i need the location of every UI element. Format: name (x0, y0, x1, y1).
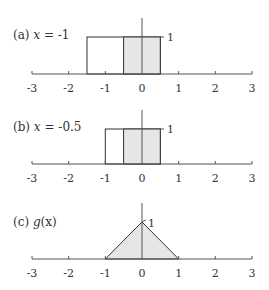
svg-text:3: 3 (249, 82, 256, 95)
svg-text:-1: -1 (100, 172, 111, 185)
panel-a-label: (a) x = -1 (13, 28, 70, 42)
svg-text:3: 3 (249, 267, 256, 280)
panel-c-label: (c) g(x) (13, 215, 57, 229)
svg-text:2: 2 (212, 172, 219, 185)
panel-b-label: (b) x = -0.5 (13, 120, 81, 134)
svg-text:-3: -3 (27, 267, 38, 280)
svg-text:0: 0 (139, 267, 146, 280)
svg-text:0: 0 (139, 172, 146, 185)
panel-a: 1 -3 -2 -1 0 1 2 3 (a) x = -1 (13, 18, 256, 95)
x-tick-labels: -3 -2 -1 0 1 2 3 (27, 267, 256, 280)
x-tick-labels: -3 -2 -1 0 1 2 3 (27, 172, 256, 185)
svg-text:-3: -3 (27, 172, 38, 185)
svg-text:1: 1 (175, 82, 182, 95)
svg-text:-2: -2 (63, 172, 74, 185)
y-label-1: 1 (167, 123, 174, 136)
svg-text:0: 0 (139, 82, 146, 95)
y-label-1: 1 (148, 217, 155, 230)
panel-b: 1 -3 -2 -1 0 1 2 3 (b) x = -0.5 (13, 110, 256, 185)
svg-text:1: 1 (175, 172, 182, 185)
svg-text:-2: -2 (63, 82, 74, 95)
svg-text:2: 2 (212, 267, 219, 280)
svg-text:3: 3 (249, 172, 256, 185)
svg-text:-1: -1 (100, 82, 111, 95)
panel-c: 1 -3 -2 -1 0 1 2 3 (c) g(x) (13, 203, 256, 280)
svg-text:-3: -3 (27, 82, 38, 95)
svg-text:-1: -1 (100, 267, 111, 280)
y-label-1: 1 (167, 31, 174, 44)
convolution-diagram: 1 -3 -2 -1 0 1 2 3 (a) x = -1 1 (0, 0, 269, 290)
svg-text:-2: -2 (63, 267, 74, 280)
x-tick-labels: -3 -2 -1 0 1 2 3 (27, 82, 256, 95)
y-tick-1 (142, 220, 146, 222)
svg-text:1: 1 (175, 267, 182, 280)
svg-text:2: 2 (212, 82, 219, 95)
